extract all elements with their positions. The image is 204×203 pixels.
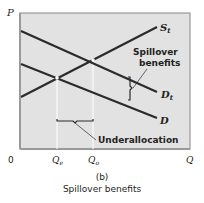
spillover-label-line2: benefits	[139, 58, 180, 68]
d-label: D	[159, 115, 169, 126]
figure-caption: Spillover benefits	[63, 184, 142, 194]
plot-area	[20, 13, 190, 149]
spillover-label-line1: Spillover	[133, 47, 178, 57]
origin-label: 0	[8, 155, 14, 165]
axis-x-label: Q	[186, 155, 194, 165]
qe-label: Qe	[52, 155, 63, 166]
equilibrium-point-qo	[91, 58, 95, 62]
qo-label: Qo	[88, 155, 99, 166]
equilibrium-point-qe	[55, 76, 59, 80]
underallocation-label: Underallocation	[98, 135, 179, 145]
panel-label: (b)	[96, 172, 109, 182]
axis-y-label: P	[6, 7, 14, 18]
spillover-benefits-diagram: P St Dt D Spillover benefits Underalloca…	[0, 0, 204, 203]
